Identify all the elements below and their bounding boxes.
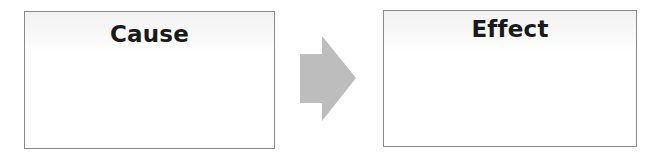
effect-title: Effect — [384, 16, 636, 42]
right-arrow-icon — [298, 34, 360, 124]
arrow-shape — [300, 36, 356, 121]
cause-title: Cause — [25, 21, 274, 47]
cause-box: Cause — [24, 11, 275, 149]
effect-box: Effect — [383, 10, 637, 147]
